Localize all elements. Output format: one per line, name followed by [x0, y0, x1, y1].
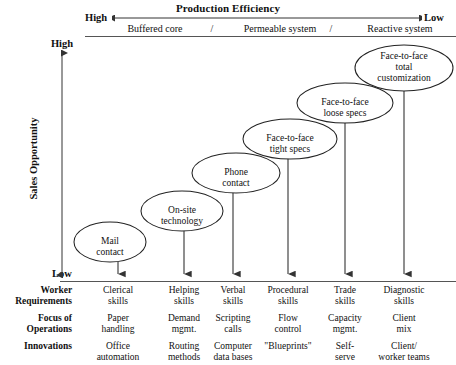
- node-ellipse-on-site-technology: [141, 191, 223, 231]
- cell-worker-requirements-6: Diagnostic skills: [360, 285, 448, 307]
- cell-focus-of-operations-6: Client mix: [360, 313, 448, 335]
- cell-line-2: worker teams: [360, 352, 448, 363]
- row-label-worker-requirements: Worker Requirements: [0, 285, 72, 307]
- cell-line-1: Diagnostic: [360, 285, 448, 296]
- row-label-line-1: Focus of: [38, 313, 72, 323]
- cell-line-1: Client: [360, 313, 448, 324]
- table-top-divider-rule: [60, 281, 456, 282]
- node-ellipse-mail-contact: [74, 222, 146, 262]
- cell-line-2: skills: [360, 296, 448, 307]
- cell-line-2: data bases: [193, 352, 273, 363]
- row-label-line-1: Worker: [41, 285, 73, 295]
- row-label-innovations: Innovations: [0, 341, 72, 352]
- node-ellipse-phone-contact: [192, 153, 280, 193]
- cell-innovations-6: Client/ worker teams: [360, 341, 448, 363]
- service-process-matrix-diagram: Production Efficiency High Low Buffered …: [0, 0, 456, 365]
- node-ellipse-face-to-face-loose: [297, 83, 393, 123]
- row-label-line-2: Operations: [27, 324, 72, 334]
- node-ellipse-face-to-face-total: [355, 45, 453, 91]
- cell-line-1: Client/: [360, 341, 448, 352]
- node-ellipse-face-to-face-tight: [243, 119, 337, 159]
- cell-line-2: mix: [360, 324, 448, 335]
- plot-area: Mail contact On-site technology Phone co…: [0, 0, 456, 282]
- plot-svg: [0, 0, 456, 282]
- row-label-line-1: Innovations: [24, 341, 72, 351]
- row-label-focus-of-operations: Focus of Operations: [0, 313, 72, 335]
- row-label-line-2: Requirements: [15, 296, 72, 306]
